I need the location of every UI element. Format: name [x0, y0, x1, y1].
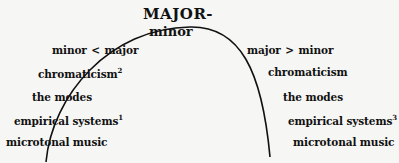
title: MAJOR- [143, 5, 213, 23]
label-text: empirical systems [288, 115, 392, 127]
left-text: minor [52, 44, 87, 56]
right-text: major [247, 44, 281, 56]
greater-than-symbol: > [285, 44, 294, 56]
right-label-empirical: empirical systems3 [288, 113, 397, 127]
right-label-microtonal: microtonal music [293, 136, 394, 148]
left-label-modes: the modes [32, 91, 92, 103]
left-text-2: major [105, 44, 139, 56]
label-text: chromaticism [38, 68, 118, 80]
left-label-microtonal: microtonal music [6, 136, 107, 148]
right-label-chromaticism: chromaticism [268, 66, 348, 78]
footnote-marker: 1 [118, 113, 123, 122]
left-label-chromaticism: chromaticism2 [38, 66, 122, 80]
left-label-empirical: empirical systems1 [14, 113, 123, 127]
less-than-symbol: < [91, 44, 100, 56]
subtitle: minor [149, 24, 193, 39]
footnote-marker: 2 [118, 66, 123, 75]
left-label-minor-less-major: minor < major [52, 44, 138, 56]
right-text-2: minor [299, 44, 334, 56]
right-label-modes: the modes [283, 91, 343, 103]
label-text: empirical systems [14, 115, 118, 127]
footnote-marker: 3 [392, 113, 397, 122]
right-label-major-greater-minor: major > minor [247, 44, 333, 56]
